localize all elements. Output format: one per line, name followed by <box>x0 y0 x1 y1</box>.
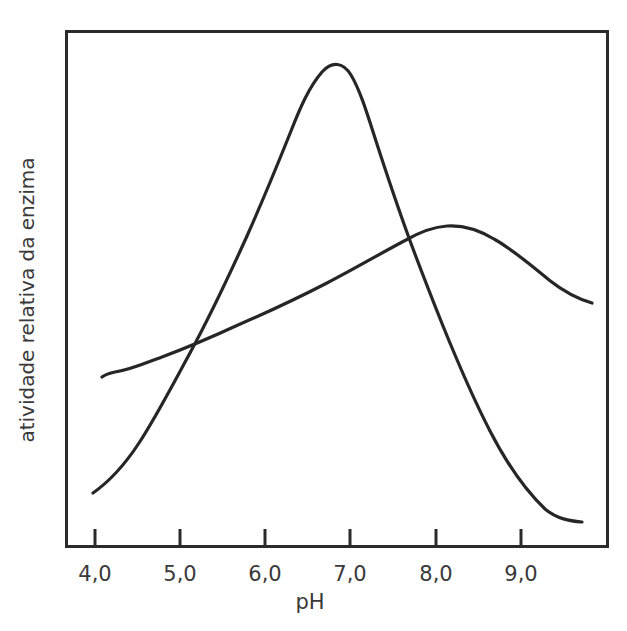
plot-frame <box>67 32 608 547</box>
y-axis-title: atividade relativa da enzima <box>15 157 39 442</box>
x-tick-label-3: 6,0 <box>248 562 281 586</box>
x-tick-label-6: 9,0 <box>504 562 537 586</box>
x-axis-tick-labels: 4,0 5,0 6,0 7,0 8,0 9,0 <box>78 562 537 586</box>
chart-canvas: 4,0 5,0 6,0 7,0 8,0 9,0 pH atividade rel… <box>0 0 627 631</box>
x-axis-title: pH <box>295 590 324 614</box>
enzyme-activity-chart: 4,0 5,0 6,0 7,0 8,0 9,0 pH atividade rel… <box>0 0 627 631</box>
x-tick-label-1: 4,0 <box>78 562 111 586</box>
x-tick-label-2: 5,0 <box>163 562 196 586</box>
x-tick-label-5: 8,0 <box>419 562 452 586</box>
x-tick-label-4: 7,0 <box>333 562 366 586</box>
